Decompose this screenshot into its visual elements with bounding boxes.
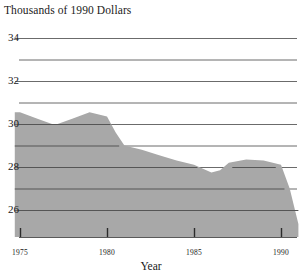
chart-container: Thousands of 1990 Dollars 2628303234 197… [0,0,302,279]
y-axis-tick-label: 34 [0,32,19,43]
y-tick-text-30: 30 [2,118,19,129]
plot-area [0,0,302,279]
x-tick-text-1980: 1980 [92,248,122,257]
y-tick-text-34: 34 [2,32,19,43]
x-axis-title: Year [0,259,302,273]
x-tick-text-1990: 1990 [266,248,296,257]
area-fill [15,112,299,237]
x-tick-text-1985: 1985 [179,248,209,257]
y-tick-text-26: 26 [2,204,19,215]
y-tick-text-28: 28 [2,161,19,172]
area-series [15,112,299,237]
y-axis-tick-label: 30 [0,118,19,129]
y-axis-tick-label: 32 [0,75,19,86]
y-axis-tick-label: 28 [0,161,19,172]
x-tick-text-1975: 1975 [5,248,35,257]
y-tick-text-32: 32 [2,75,19,86]
y-axis-tick-label: 26 [0,204,19,215]
